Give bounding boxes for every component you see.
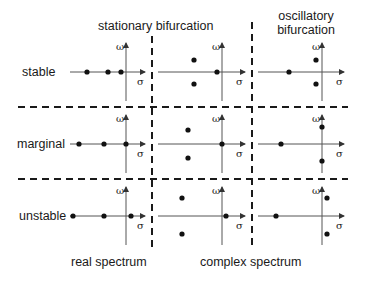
eigenvalue-dot-unstable-3 xyxy=(273,213,278,218)
eigenvalue-dot-unstable-2 xyxy=(179,195,184,200)
omega-label: ω xyxy=(116,113,124,124)
omega-label: ω xyxy=(312,185,320,196)
axis-labels: ω σ ω σ ω σ ω σ ω σ ω σ ω σ ω σ ω σ xyxy=(116,41,343,231)
eigenvalue-dot-marginal-1 xyxy=(123,141,128,146)
eigenvalue-dot-marginal-1 xyxy=(101,141,106,146)
eigenvalue-dot-marginal-2 xyxy=(219,141,224,146)
eigenvalue-dot-stable-1 xyxy=(105,69,110,74)
eigenvalue-dot-stable-3 xyxy=(313,81,318,86)
eigenvalue-dot-unstable-1 xyxy=(70,213,75,218)
eigenvalue-dot-unstable-3 xyxy=(324,195,329,200)
eigenvalue-dot-stable-2 xyxy=(214,69,219,74)
eigenvalue-dot-stable-3 xyxy=(313,57,318,62)
omega-label: ω xyxy=(312,41,320,52)
eigenvalue-dot-stable-1 xyxy=(118,69,123,74)
spectrum-diagram: stationary bifurcation oscillatory bifur… xyxy=(0,0,365,282)
eigenvalue-dots xyxy=(70,57,329,236)
eigenvalue-dot-marginal-1 xyxy=(76,141,81,146)
eigenvalue-dot-marginal-2 xyxy=(185,155,190,160)
sigma-label: σ xyxy=(236,76,243,87)
eigenvalue-dot-unstable-2 xyxy=(179,231,184,236)
eigenvalue-dot-unstable-3 xyxy=(324,231,329,236)
sigma-label: σ xyxy=(336,220,343,231)
col-label-oscillatory-2: bifurcation xyxy=(277,23,335,37)
eigenvalue-dot-marginal-3 xyxy=(319,124,324,129)
bottom-label-real: real spectrum xyxy=(71,255,147,269)
eigenvalue-dot-unstable-1 xyxy=(128,213,133,218)
row-label-unstable: unstable xyxy=(19,209,66,223)
omega-label: ω xyxy=(212,185,220,196)
omega-label: ω xyxy=(212,41,220,52)
sigma-label: σ xyxy=(137,220,144,231)
eigenvalue-dot-stable-1 xyxy=(84,69,89,74)
omega-label: ω xyxy=(116,41,124,52)
omega-label: ω xyxy=(116,185,124,196)
eigenvalue-dot-stable-3 xyxy=(286,69,291,74)
eigenvalue-dot-unstable-2 xyxy=(223,213,228,218)
col-label-stationary: stationary bifurcation xyxy=(98,19,213,33)
bottom-label-complex: complex spectrum xyxy=(200,255,301,269)
axes-row-marginal xyxy=(70,115,344,173)
sigma-label: σ xyxy=(336,148,343,159)
omega-label: ω xyxy=(212,113,220,124)
eigenvalue-dot-stable-2 xyxy=(191,57,196,62)
col-label-oscillatory-1: oscillatory xyxy=(278,9,334,23)
row-label-stable: stable xyxy=(22,65,55,79)
axes-row-stable xyxy=(70,43,344,101)
eigenvalue-dot-marginal-3 xyxy=(319,158,324,163)
eigenvalue-dot-unstable-1 xyxy=(101,213,106,218)
axes-row-unstable xyxy=(70,187,344,245)
sigma-label: σ xyxy=(236,148,243,159)
sigma-label: σ xyxy=(137,76,144,87)
sigma-label: σ xyxy=(336,76,343,87)
sigma-label: σ xyxy=(236,220,243,231)
eigenvalue-dot-marginal-3 xyxy=(278,141,283,146)
eigenvalue-dot-stable-2 xyxy=(191,81,196,86)
eigenvalue-dot-marginal-2 xyxy=(185,127,190,132)
row-label-marginal: marginal xyxy=(17,137,65,151)
omega-label: ω xyxy=(312,113,320,124)
sigma-label: σ xyxy=(137,148,144,159)
